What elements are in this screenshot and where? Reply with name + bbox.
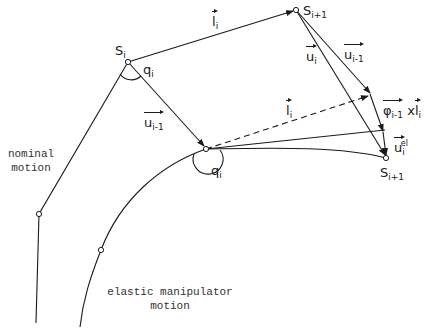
nominal-path-point (36, 211, 41, 216)
vector-u-i (296, 10, 385, 155)
elastic-path-point (98, 247, 103, 252)
angle-arc-si (120, 74, 141, 80)
joint-point-s-i1-top (293, 7, 298, 12)
label-vector-u-el: uiel (394, 140, 408, 157)
label-q-i-bottom: qi (211, 164, 222, 180)
label-vector-u-i-minus-1-left: ui-1 (144, 116, 164, 132)
vector-u-i-minus-1-left (128, 62, 204, 146)
elastic-link-curve (206, 148, 386, 158)
label-q-i-top: qi (143, 63, 154, 79)
caption-elastic-manipulator-motion: elastic manipulator motion (100, 285, 240, 313)
nominal-motion-path (36, 62, 128, 323)
joint-point-s-i (125, 59, 130, 64)
label-s-i1-bottom: Si+1 (380, 166, 404, 182)
label-s-i: Si (115, 44, 126, 60)
label-vector-l-i-top: li (212, 15, 218, 31)
rigid-link-line (206, 130, 385, 149)
joint-point-q-i (203, 146, 208, 151)
joint-point-s-i1-bottom (383, 155, 388, 160)
vector-l-i-top (128, 11, 293, 62)
label-vector-l-i-dashed: li (286, 104, 292, 120)
caption-nominal-motion: nominal motion (2, 147, 60, 175)
vector-phi-cross-l (370, 94, 383, 131)
label-vector-u-i-minus-1-top: ui-1 (344, 48, 364, 64)
manipulator-kinematics-diagram: Si Si+1 Si+1 qi qi li li ui ui-1 ui-1 φi… (0, 0, 431, 331)
label-vector-phi-cross-l: φi-1 xli (383, 104, 421, 120)
label-s-i1-top: Si+1 (303, 4, 327, 20)
label-vector-u-i: ui (306, 50, 317, 66)
